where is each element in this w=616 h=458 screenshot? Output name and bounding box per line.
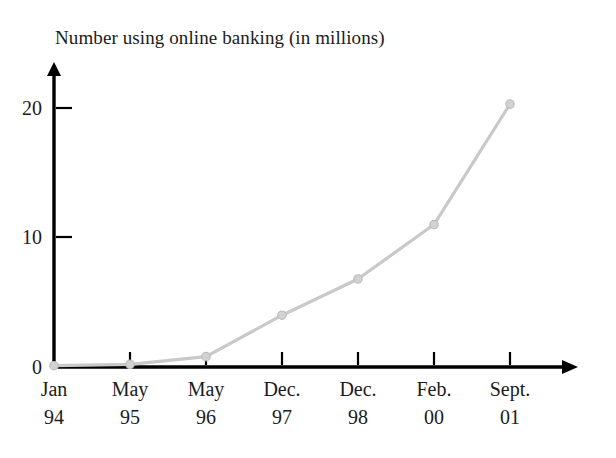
x-axis-tick-label: Dec.97 bbox=[263, 378, 300, 428]
x-axis-arrowhead bbox=[562, 360, 578, 374]
x-axis-tick-label-year: 96 bbox=[196, 406, 216, 428]
y-axis-arrowhead bbox=[47, 62, 61, 76]
x-axis-tick-label-year: 94 bbox=[44, 406, 64, 428]
data-point-marker bbox=[278, 311, 286, 319]
x-axis-tick-label-month: May bbox=[188, 378, 225, 401]
y-axis-tick-label: 0 bbox=[32, 356, 42, 378]
x-axis-tick-label: Sept.01 bbox=[490, 378, 531, 428]
x-axis-tick-label-month: Sept. bbox=[490, 378, 531, 401]
chart-figure: Number using online banking (in millions… bbox=[0, 0, 616, 458]
data-point-marker bbox=[430, 220, 438, 228]
x-axis-tick-label-year: 98 bbox=[348, 406, 368, 428]
x-axis-tick-label: May95 bbox=[112, 378, 149, 428]
x-axis-tick-label-year: 97 bbox=[272, 406, 292, 428]
x-axis-tick-label-year: 01 bbox=[500, 406, 520, 428]
y-axis-tick-label: 10 bbox=[22, 226, 42, 248]
data-point-marker bbox=[202, 352, 210, 360]
series-polyline bbox=[54, 104, 510, 366]
x-axis-tick-label-month: Dec. bbox=[339, 378, 376, 400]
data-series-line bbox=[54, 104, 510, 366]
data-point-marker bbox=[506, 100, 514, 108]
x-axis-tick-label: Dec.98 bbox=[339, 378, 376, 428]
x-axis-tick-labels: Jan94May95May96Dec.97Dec.98Feb.00Sept.01 bbox=[41, 378, 531, 428]
data-point-marker bbox=[126, 360, 134, 368]
data-point-markers bbox=[50, 100, 514, 370]
x-axis-tick-label: Jan94 bbox=[41, 378, 68, 428]
data-point-marker bbox=[50, 362, 58, 370]
x-axis-tick-label-month: Jan bbox=[41, 378, 68, 400]
x-axis-tick-label-month: Dec. bbox=[263, 378, 300, 400]
x-axis-tick-label-year: 00 bbox=[424, 406, 444, 428]
y-axis-tick-labels: 01020 bbox=[22, 97, 42, 378]
y-axis-tick-label: 20 bbox=[22, 97, 42, 119]
x-axis-tick-label: Feb.00 bbox=[417, 378, 452, 428]
axes-group bbox=[47, 62, 578, 374]
data-point-marker bbox=[354, 275, 362, 283]
y-tick-marks bbox=[56, 108, 72, 237]
x-axis-tick-label-year: 95 bbox=[120, 406, 140, 428]
x-axis-tick-label-month: May bbox=[112, 378, 149, 401]
x-axis-tick-label: May96 bbox=[188, 378, 225, 428]
x-axis-tick-label-month: Feb. bbox=[417, 378, 452, 400]
line-chart-plot: 01020 Jan94May95May96Dec.97Dec.98Feb.00S… bbox=[0, 0, 616, 458]
